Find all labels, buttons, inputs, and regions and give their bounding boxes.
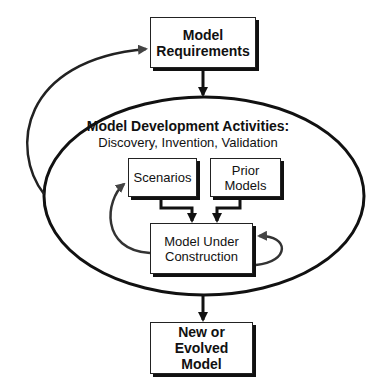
prior-models-box: Prior Models: [210, 158, 281, 197]
model-under-construction-line1: Model Under: [164, 234, 238, 249]
model-under-construction-box: Model Under Construction: [150, 223, 253, 274]
new-or-evolved-model-line2: Model: [181, 356, 221, 372]
prior-models-line2: Models: [225, 178, 267, 193]
model-under-construction-line2: Construction: [165, 249, 238, 264]
activities-subtitle: Discovery, Invention, Validation: [0, 135, 376, 150]
arrow-construction-self-loop: [256, 236, 282, 265]
model-requirements-box: Model Requirements: [150, 17, 256, 68]
new-or-evolved-model-line1: New or Evolved: [151, 324, 252, 356]
arrow-scenarios-to-construction: [161, 197, 192, 221]
prior-models-line1: Prior: [232, 163, 259, 178]
scenarios-box: Scenarios: [128, 158, 197, 197]
scenarios-label: Scenarios: [134, 170, 192, 185]
activities-title: Model Development Activities:: [0, 118, 376, 134]
new-or-evolved-model-box: New or Evolved Model: [150, 322, 253, 374]
model-requirements-line1: Model: [183, 27, 223, 43]
arrow-prior-models-to-construction: [217, 197, 240, 221]
model-requirements-line2: Requirements: [156, 43, 249, 59]
